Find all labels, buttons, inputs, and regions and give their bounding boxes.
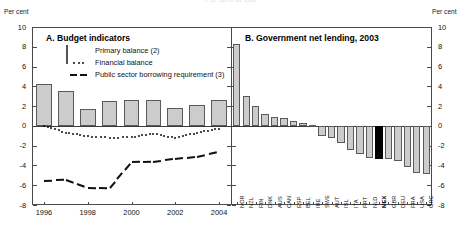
x-tick-mark	[398, 202, 399, 205]
x-axis-label-country: ESP	[296, 197, 302, 209]
x-tick-mark	[379, 202, 380, 205]
bar-country	[337, 126, 344, 143]
x-tick-mark	[237, 202, 238, 205]
bar-country	[243, 96, 250, 126]
x-axis-label-country: CAN	[286, 196, 292, 208]
legend-label: Financial balance	[95, 58, 153, 67]
x-axis-label-country: SWE	[324, 195, 330, 208]
x-tick-mark	[341, 202, 342, 205]
bar-country	[423, 126, 430, 174]
bar-country	[299, 123, 306, 126]
x-axis-label-country: GBR	[391, 196, 397, 208]
x-axis-label-country: ITA	[353, 199, 359, 208]
bar-country	[280, 118, 287, 125]
chart-figure: Per cent of GDP Per cent Per cent 101088…	[0, 0, 465, 252]
panel-b-heading: B. Government net lending, 2003	[245, 33, 379, 43]
bar-country	[347, 126, 354, 150]
legend-item-financial-balance: Financial balance	[66, 57, 224, 68]
x-tick-mark	[303, 202, 304, 205]
x-axis-label-country: NZL	[248, 197, 254, 208]
x-axis-label-country: NLD	[372, 197, 378, 209]
x-axis-label-country: FRA	[410, 197, 416, 209]
bar-country	[356, 126, 363, 154]
bar-country	[328, 126, 335, 138]
x-axis-label-country: DEU	[400, 196, 406, 208]
bar-country	[252, 106, 259, 126]
x-tick-mark	[284, 202, 285, 205]
x-axis-label-country: IRE	[315, 198, 321, 208]
x-axis-label-country: AUS	[277, 196, 283, 208]
x-tick-mark	[275, 202, 276, 205]
x-tick-mark	[350, 202, 351, 205]
bar-country-highlighted	[375, 126, 382, 159]
x-tick-mark	[294, 202, 295, 205]
bar-country	[385, 126, 392, 160]
x-axis-label-country: ISL	[343, 199, 349, 208]
x-tick-mark	[322, 202, 323, 205]
x-axis-label-country: GRC	[428, 195, 434, 208]
panel-a-heading: A. Budget indicators	[46, 33, 130, 43]
bar-country	[413, 126, 420, 173]
bar-country	[290, 121, 297, 125]
x-axis-label-country: MEX	[381, 196, 387, 208]
legend-swatch-dashed-icon	[66, 70, 88, 79]
x-tick-mark	[369, 202, 370, 205]
x-axis-label-country: FIN	[258, 199, 264, 208]
legend-swatch-bar-icon	[66, 46, 88, 55]
x-tick-mark	[256, 202, 257, 205]
x-axis-label-country: AUT	[334, 197, 340, 209]
x-tick-mark	[417, 202, 418, 205]
x-tick-mark	[407, 202, 408, 205]
x-tick-mark	[388, 202, 389, 205]
bar-country	[233, 44, 240, 126]
x-tick-mark	[265, 202, 266, 205]
bar-country	[404, 126, 411, 168]
x-axis-label-country: DNK	[267, 196, 273, 208]
x-tick-mark	[313, 202, 314, 205]
legend-swatch-dotted-icon	[66, 58, 88, 67]
x-tick-mark	[360, 202, 361, 205]
bar-country	[261, 114, 268, 126]
legend-item-psbr: Public sector borrowing requirement (3)	[66, 69, 224, 80]
x-axis-label-country: PRT	[362, 197, 368, 208]
legend-label: Public sector borrowing requirement (3)	[95, 70, 224, 79]
bar-country	[318, 126, 325, 136]
bar-country	[271, 117, 278, 125]
bar-country	[366, 126, 373, 158]
x-tick-mark	[332, 202, 333, 205]
bar-country	[309, 125, 316, 127]
x-axis-label-country: NOR	[239, 195, 245, 208]
legend: Primary balance (2) Financial balance Pu…	[66, 45, 224, 81]
x-axis-label-country: BEL	[305, 197, 311, 208]
legend-label: Primary balance (2)	[95, 46, 159, 55]
x-axis-label-country: USA	[419, 196, 425, 208]
bar-country	[394, 126, 401, 162]
legend-item-primary-balance: Primary balance (2)	[66, 45, 224, 56]
